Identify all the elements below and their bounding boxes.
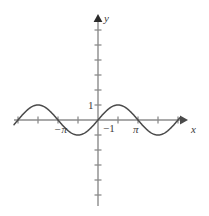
sine-curve-figure: y x 1 −1 −π π (0, 0, 209, 216)
x-axis-label: x (191, 124, 196, 135)
y-tick-label-one: 1 (88, 100, 94, 111)
y-axis-label: y (104, 13, 109, 24)
plot-canvas (0, 0, 209, 216)
x-axis-arrowhead (180, 116, 188, 125)
x-tick-label-negative-pi: −π (54, 124, 67, 135)
y-axis-arrowhead (94, 14, 103, 22)
y-tick-label-negative-one: −1 (103, 123, 115, 134)
x-tick-label-pi: π (133, 124, 139, 135)
